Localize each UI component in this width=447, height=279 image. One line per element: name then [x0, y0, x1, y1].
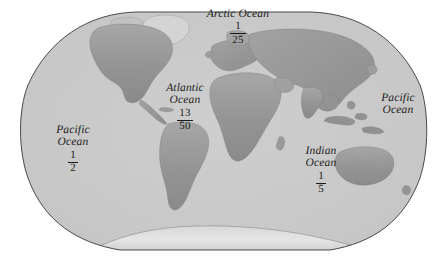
arctic-ocean-name: Arctic Ocean [186, 8, 290, 20]
pacific-ocean-east-name-line-2: Ocean [370, 104, 426, 116]
arctic-ocean-numerator: 1 [230, 21, 245, 33]
pacific-ocean-west-name-line-2: Ocean [44, 136, 102, 148]
label-pacific-ocean-east: Pacific Ocean [370, 92, 426, 117]
atlantic-ocean-denominator: 50 [177, 120, 192, 133]
world-map-figure: Arctic Ocean 1 25 Atlantic Ocean 13 50 P… [0, 0, 447, 279]
pacific-ocean-west-denominator: 2 [68, 162, 78, 175]
indian-ocean-name-line-2: Ocean [290, 157, 352, 169]
label-atlantic-ocean: Atlantic Ocean 13 50 [148, 82, 222, 133]
indian-ocean-denominator: 5 [316, 183, 326, 196]
label-indian-ocean: Indian Ocean 1 5 [290, 145, 352, 196]
indian-ocean-name-line-1: Indian [290, 145, 352, 157]
atlantic-ocean-name-line-1: Atlantic [148, 82, 222, 94]
pacific-ocean-east-name-line-1: Pacific [370, 92, 426, 104]
indian-ocean-fraction: 1 5 [316, 171, 326, 196]
atlantic-ocean-fraction: 13 50 [177, 108, 192, 133]
indian-ocean-numerator: 1 [316, 171, 326, 183]
atlantic-ocean-numerator: 13 [177, 108, 192, 120]
arctic-ocean-denominator: 25 [230, 33, 245, 46]
pacific-ocean-west-name-line-1: Pacific [44, 124, 102, 136]
label-arctic-ocean: Arctic Ocean 1 25 [186, 8, 290, 46]
label-pacific-ocean-west: Pacific Ocean 1 2 [44, 124, 102, 175]
atlantic-ocean-name-line-2: Ocean [148, 94, 222, 106]
pacific-ocean-west-fraction: 1 2 [68, 150, 78, 175]
pacific-ocean-west-numerator: 1 [68, 150, 78, 162]
arctic-ocean-fraction: 1 25 [230, 21, 245, 46]
